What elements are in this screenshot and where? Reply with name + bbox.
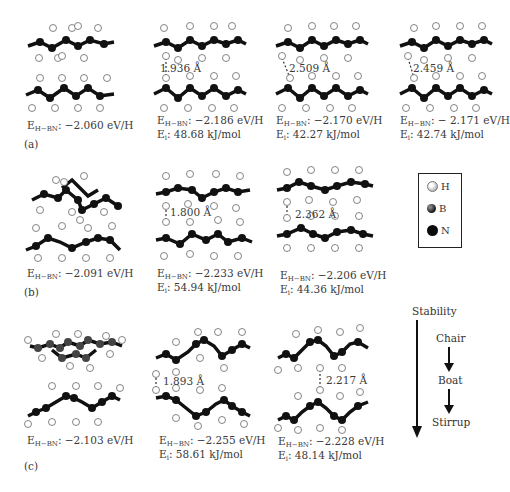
arrow-down-icon xyxy=(443,389,455,415)
molecule-a1 xyxy=(20,20,120,115)
energy-caption: EH−BN: −2.060 eV/H xyxy=(27,118,133,136)
hh-distance-label: 2.459 Å xyxy=(413,62,454,74)
legend-item-boron: B xyxy=(427,203,446,214)
hh-distance-label: 2.362 Å xyxy=(295,208,336,220)
molecule-b1 xyxy=(22,160,127,265)
interaction-energy-caption: Ei: 54.94 kJ/mol xyxy=(157,280,241,298)
boron-atom-icon xyxy=(427,204,436,213)
stability-title: Stability xyxy=(412,305,457,317)
hh-distance-label: 1.800 Å xyxy=(170,206,211,218)
legend-item-nitrogen: N xyxy=(427,225,450,236)
hh-distance-label: 2.509 Å xyxy=(289,62,330,74)
row-label-b: (b) xyxy=(24,286,39,298)
interaction-energy-caption: Ei: 42.27 kJ/mol xyxy=(276,127,360,145)
legend-item-hydrogen: H xyxy=(427,181,450,192)
hh-distance-label: 2.217 Å xyxy=(326,374,367,386)
interaction-energy-caption: Ei: 48.14 kJ/mol xyxy=(278,448,362,466)
interaction-energy-caption: Ei: 48.68 kJ/mol xyxy=(157,127,241,145)
stability-item-stirrup: Stirrup xyxy=(432,416,470,428)
interaction-energy-caption: Ei: 58.61 kJ/mol xyxy=(159,447,243,465)
energy-caption: EH−BN: −2.103 eV/H xyxy=(27,433,133,451)
molecule-c1 xyxy=(22,328,127,428)
row-label-a: (a) xyxy=(24,138,38,150)
hh-distance-label: 1.893 Å xyxy=(163,375,204,387)
energy-caption: EH−BN: −2.091 eV/H xyxy=(27,266,133,284)
interaction-energy-caption: Ei: 42.74 kJ/mol xyxy=(400,127,484,145)
hydrogen-atom-icon xyxy=(427,181,438,192)
stability-item-chair: Chair xyxy=(436,332,465,344)
interaction-energy-caption: Ei: 44.36 kJ/mol xyxy=(280,282,364,300)
stability-arrow-icon xyxy=(411,320,423,440)
row-label-c: (c) xyxy=(24,460,38,472)
stability-item-boat: Boat xyxy=(438,374,463,386)
nitrogen-atom-icon xyxy=(427,225,438,236)
hh-distance-label: 1.936 Å xyxy=(160,62,201,74)
arrow-down-icon xyxy=(443,347,455,373)
atom-legend: H B N xyxy=(418,173,462,248)
